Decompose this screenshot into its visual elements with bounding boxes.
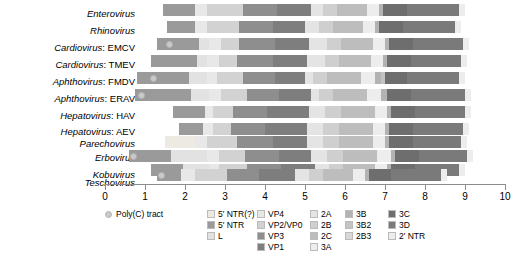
genome-segment-2a — [309, 106, 325, 118]
genome-segment-2ntr — [463, 38, 469, 50]
genome-segment-5ntr — [179, 123, 203, 135]
legend-swatch-2c — [310, 232, 318, 240]
genome-segment-vp1 — [275, 38, 309, 50]
genome-segment-2ntr — [467, 150, 473, 162]
genome-segment-3c — [389, 136, 413, 148]
axis-tick — [145, 184, 146, 190]
genome-segment-vp2vp0 — [221, 89, 247, 101]
legend-swatch-3d — [388, 221, 396, 229]
genome-segment-5ntr — [157, 38, 199, 50]
legend-label: 2B3 — [356, 231, 371, 241]
legend-swatch-2b — [310, 221, 318, 229]
genome-segment-3a — [367, 4, 379, 16]
genome-segment-3d — [413, 136, 461, 148]
polyc-tract-marker — [138, 92, 145, 99]
genome-segment-l — [191, 89, 209, 101]
legend-item-2c: 2C — [310, 232, 332, 241]
genome-segment-vp3 — [245, 150, 279, 162]
axis-tick — [345, 184, 346, 190]
genome-bar — [137, 72, 465, 84]
axis-tick-label: 5 — [302, 191, 308, 202]
legend-swatch-vp1 — [257, 243, 265, 251]
genome-segment-2ntr — [441, 169, 447, 181]
axis-tick — [105, 184, 106, 190]
genome-segment-3d — [419, 150, 467, 162]
genome-segment-vp4 — [209, 38, 221, 50]
genome-segment-vp1 — [277, 4, 311, 16]
genome-segment-3a — [367, 89, 381, 101]
genome-segment-2c — [337, 4, 367, 16]
legend-item-2b3: 2B3 — [345, 232, 371, 241]
genome-segment-2b — [327, 38, 341, 50]
genome-segment-vp4 — [195, 4, 207, 16]
genome-segment-l — [171, 150, 207, 162]
legend-swatch-2a — [310, 210, 318, 218]
legend-label: 3B2 — [356, 220, 371, 230]
genome-segment-vp2vp0 — [207, 136, 237, 148]
genome-segment-2a — [311, 4, 323, 16]
axis-tick — [185, 184, 186, 190]
genome-segment-2b — [319, 21, 333, 33]
genome-segment-vp3 — [243, 4, 277, 16]
genome-segment-vp1 — [279, 89, 311, 101]
legend-swatch-2b3 — [345, 232, 353, 240]
genome-bar — [163, 4, 465, 16]
genome-segment-2c — [341, 106, 375, 118]
genome-segment-3a — [377, 150, 391, 162]
genome-segment-vp1 — [273, 21, 305, 33]
genome-segment-3c — [369, 169, 391, 181]
genome-bar — [135, 89, 471, 101]
genome-segment-vp1 — [273, 136, 307, 148]
axis-tick — [305, 184, 306, 190]
axis-tick — [385, 184, 386, 190]
genome-segment-l — [189, 72, 207, 84]
legend-swatch-l — [207, 232, 215, 240]
legend-swatch-3b — [345, 210, 353, 218]
genome-segment-vp4 — [195, 136, 207, 148]
legend-label: 5' NTR — [218, 220, 244, 230]
genome-segment-vp4 — [203, 123, 213, 135]
genome-segment-vp4 — [207, 72, 217, 84]
legend-label: 3A — [321, 242, 331, 252]
legend-label: 2A — [321, 209, 331, 219]
genome-segment-3d — [403, 21, 455, 33]
genome-segment-5ntr — [167, 21, 195, 33]
legend-label: VP3 — [268, 231, 284, 241]
legend-swatch-3b2 — [345, 221, 353, 229]
genome-segment-3a — [361, 72, 375, 84]
legend-label: 2' NTR — [399, 231, 425, 241]
genome-segment-2a — [311, 150, 327, 162]
genome-segment-2a — [307, 55, 325, 67]
genome-segment-vp4 — [209, 89, 221, 101]
legend-label: 2B — [321, 220, 331, 230]
legend-item-l: L — [207, 232, 223, 241]
genome-segment-3d — [415, 106, 465, 118]
genome-segment-vp1 — [279, 150, 311, 162]
genome-segment-3a — [363, 21, 375, 33]
genome-segment-2a — [307, 123, 323, 135]
genome-segment-3a — [353, 169, 365, 181]
axis-tick-label: 8 — [422, 191, 428, 202]
axis-tick — [265, 184, 266, 190]
genome-segment-vp3 — [233, 106, 267, 118]
genome-segment-3c — [389, 38, 413, 50]
genome-segment-2a — [295, 169, 309, 181]
genome-segment-2c — [339, 136, 373, 148]
genome-segment-3c — [385, 72, 407, 84]
legend-swatch-5ntrq — [207, 210, 215, 218]
genome-segment-5ntr — [163, 4, 195, 16]
genome-segment-vp1 — [273, 55, 307, 67]
bars-plot-area — [0, 0, 511, 185]
genome-segment-vp1 — [259, 169, 295, 181]
genome-segment-2a — [311, 89, 319, 101]
axis-tick-label: 4 — [262, 191, 268, 202]
legend-swatch-5ntr — [207, 221, 215, 229]
genome-segment-2c — [339, 123, 373, 135]
genome-segment-2ntr — [461, 55, 467, 67]
axis-tick — [225, 184, 226, 190]
legend-item-vp4: VP4 — [257, 210, 284, 219]
legend-label: VP4 — [268, 209, 284, 219]
legend-swatch-vp4 — [257, 210, 265, 218]
axis-tick — [505, 184, 506, 190]
genome-segment-vp2vp0 — [195, 169, 227, 181]
